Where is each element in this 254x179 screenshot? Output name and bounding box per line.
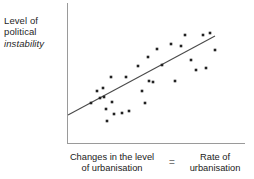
x-caption-right: Rate of urbanisation <box>180 152 250 174</box>
data-point <box>202 34 205 37</box>
data-point <box>195 69 198 72</box>
data-point <box>190 59 193 62</box>
x-axis-caption: Changes in the level of urbanisation = R… <box>60 152 254 174</box>
data-point <box>128 110 131 113</box>
data-point <box>103 96 106 99</box>
data-point <box>99 97 102 100</box>
data-point <box>214 49 217 52</box>
data-point <box>209 32 212 35</box>
data-point <box>102 87 105 90</box>
x-caption-left-line-1: Changes in the level <box>60 152 164 163</box>
data-point <box>174 80 177 83</box>
data-point <box>141 90 144 93</box>
y-axis-label-line-1: Level of <box>4 15 60 26</box>
x-caption-left-line-2: of urbanisation <box>60 163 164 174</box>
x-caption-right-line-1: Rate of <box>180 152 250 163</box>
data-point <box>137 65 140 68</box>
scatter-points-layer <box>67 3 245 144</box>
y-axis-label-line-3: instability <box>4 38 60 49</box>
data-point <box>96 90 99 93</box>
data-point <box>110 76 113 79</box>
data-point <box>105 108 108 111</box>
data-point <box>170 43 173 46</box>
x-caption-left: Changes in the level of urbanisation <box>60 152 164 174</box>
data-point <box>161 64 164 67</box>
y-axis-label: Level of political instability <box>4 15 60 49</box>
data-point <box>121 112 124 115</box>
data-point <box>144 102 147 105</box>
data-point <box>148 80 151 83</box>
data-point <box>125 76 128 79</box>
data-point <box>180 45 183 48</box>
data-point <box>90 102 93 105</box>
data-point <box>106 120 109 123</box>
data-point <box>113 113 116 116</box>
scatter-plot-area <box>67 3 245 144</box>
data-point <box>147 56 150 59</box>
data-point <box>184 34 187 37</box>
data-point <box>205 67 208 70</box>
data-point <box>111 101 114 104</box>
data-point <box>152 81 155 84</box>
equals-sign: = <box>164 157 180 169</box>
data-point <box>156 48 159 51</box>
x-caption-right-line-2: urbanisation <box>180 163 250 174</box>
y-axis-label-line-2: political <box>4 26 60 37</box>
